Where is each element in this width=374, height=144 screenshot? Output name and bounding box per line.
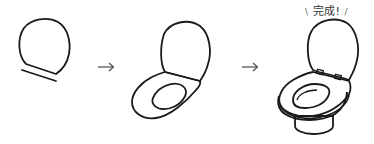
label-right-mark: /	[344, 7, 348, 17]
label-left-mark: \	[305, 7, 309, 17]
label-text: 完成!	[313, 5, 341, 18]
arrow-1	[97, 62, 115, 72]
step-2-lid-and-seat	[130, 20, 210, 120]
arrow-2	[241, 62, 259, 72]
assembly-diagram: \ 完成! /	[0, 0, 374, 144]
complete-label: \ 完成! /	[305, 2, 348, 18]
step-1-lid	[14, 18, 74, 88]
toilet-lid-icon	[14, 18, 74, 88]
step-3-complete-toilet	[273, 18, 363, 138]
arrow-right-icon	[97, 62, 115, 72]
toilet-complete-icon	[273, 18, 363, 138]
toilet-lid-and-seat-icon	[130, 20, 210, 120]
arrow-right-icon	[241, 62, 259, 72]
